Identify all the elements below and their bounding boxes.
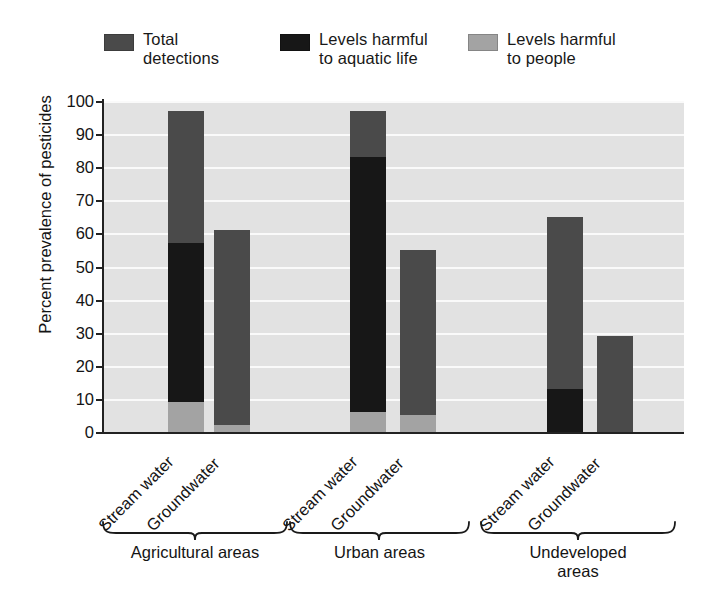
y-tick-label: 60 [48, 225, 94, 241]
y-tick-label: 20 [48, 358, 94, 374]
y-tick [96, 200, 104, 202]
segment-total-detections [400, 250, 436, 416]
legend-label-harmful-aquatic: Levels harmful to aquatic life [319, 30, 428, 68]
legend-label-total-detections: Total detections [143, 30, 219, 68]
y-tick-label: 10 [48, 391, 94, 407]
segment-harmful-aquatic [350, 157, 386, 412]
segment-harmful-people [168, 402, 204, 432]
chart-legend: Total detections Levels harmful to aquat… [104, 30, 684, 88]
y-tick-label: 80 [48, 159, 94, 175]
y-axis-title: Percent prevalence of pesticides [36, 50, 55, 380]
y-tick-label: 0 [48, 424, 94, 440]
bar-agricultural-groundwater [214, 230, 250, 432]
bar-undeveloped-stream-water [547, 217, 583, 432]
y-tick [96, 399, 104, 401]
legend-item-harmful-aquatic: Levels harmful to aquatic life [280, 30, 468, 68]
legend-item-harmful-people: Levels harmful to people [468, 30, 658, 68]
y-tick-label: 70 [48, 192, 94, 208]
y-tick-label: 40 [48, 292, 94, 308]
y-tick-label: 100 [48, 93, 94, 109]
group-brace-urban [287, 521, 472, 541]
y-tick [96, 167, 104, 169]
bar-urban-stream-water [350, 111, 386, 432]
segment-harmful-people [400, 415, 436, 432]
segment-harmful-people [214, 425, 250, 432]
group-brace-undeveloped [478, 521, 678, 541]
segment-total-detections [597, 336, 633, 432]
group-label-urban: Urban areas [287, 543, 472, 562]
y-tick [96, 366, 104, 368]
y-tick [96, 101, 104, 103]
bar-undeveloped-groundwater [597, 336, 633, 432]
gridline [104, 101, 684, 103]
y-tick-label: 50 [48, 259, 94, 275]
segment-total-detections [214, 230, 250, 425]
y-tick [96, 233, 104, 235]
y-tick [96, 432, 104, 434]
plot-area [104, 101, 684, 432]
legend-label-harmful-people: Levels harmful to people [507, 30, 616, 68]
harmful-aquatic-swatch [280, 34, 310, 51]
y-tick [96, 333, 104, 335]
legend-item-total-detections: Total detections [104, 30, 280, 68]
y-tick [96, 267, 104, 269]
x-axis-line [102, 432, 684, 434]
y-tick [96, 300, 104, 302]
harmful-people-swatch [468, 34, 498, 51]
group-label-undeveloped: Undeveloped areas [478, 543, 678, 581]
segment-harmful-people [350, 412, 386, 432]
y-tick [96, 134, 104, 136]
total-detections-swatch [104, 34, 134, 51]
segment-total-detections [350, 111, 386, 157]
group-label-agricultural: Agricultural areas [100, 543, 290, 562]
chart-figure: Total detections Levels harmful to aquat… [0, 0, 706, 602]
segment-harmful-aquatic [168, 243, 204, 402]
segment-total-detections [547, 217, 583, 389]
bar-agricultural-stream-water [168, 111, 204, 432]
y-tick-label: 90 [48, 126, 94, 142]
y-tick-label: 30 [48, 325, 94, 341]
bar-urban-groundwater [400, 250, 436, 432]
segment-harmful-aquatic [547, 389, 583, 432]
group-brace-agricultural [100, 521, 290, 541]
segment-total-detections [168, 111, 204, 243]
